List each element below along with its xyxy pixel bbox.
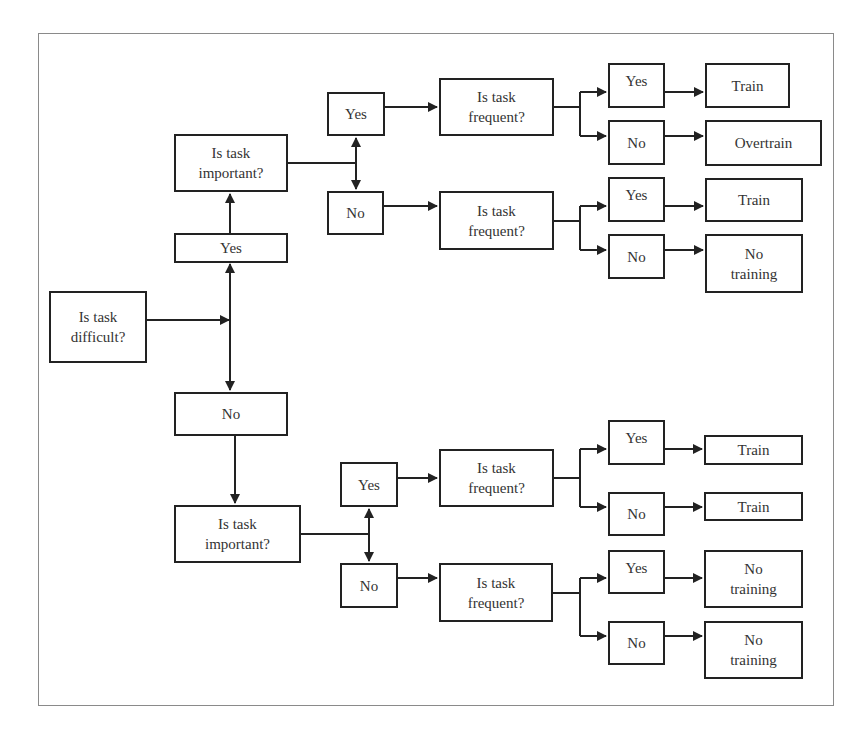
result-no-training-b: No training <box>705 234 803 293</box>
node-freq-a-no: No <box>608 120 665 165</box>
node-bottom-important-no: No <box>340 563 398 608</box>
result-train-a: Train <box>705 63 790 108</box>
result-no-training-c: No training <box>704 550 803 608</box>
node-freq-d: Is task frequent? <box>439 563 553 622</box>
result-train-b: Train <box>705 178 803 222</box>
node-freq-c: Is task frequent? <box>439 449 554 507</box>
result-train-c: Train <box>704 435 803 465</box>
result-no-training-d: No training <box>704 621 803 679</box>
node-freq-c-yes: Yes <box>608 420 665 465</box>
result-train-d: Train <box>704 492 803 521</box>
node-bottom-important-yes: Yes <box>340 462 398 507</box>
node-difficult-no: No <box>174 392 288 436</box>
node-top-is-task-important: Is task important? <box>174 134 288 192</box>
node-freq-b-yes: Yes <box>608 177 665 222</box>
node-difficult-yes: Yes <box>174 233 288 263</box>
node-is-task-difficult: Is task difficult? <box>49 291 147 363</box>
node-freq-d-yes: Yes <box>608 550 665 594</box>
node-bottom-is-task-important: Is task important? <box>174 505 301 563</box>
node-freq-c-no: No <box>608 492 665 536</box>
node-freq-b-no: No <box>608 234 665 279</box>
node-freq-d-no: No <box>608 621 665 665</box>
node-freq-b: Is task frequent? <box>439 191 554 250</box>
node-freq-a-yes: Yes <box>608 63 665 108</box>
result-overtrain: Overtrain <box>705 120 822 166</box>
node-top-important-yes: Yes <box>327 92 385 136</box>
node-top-important-no: No <box>327 191 384 235</box>
node-freq-a: Is task frequent? <box>439 78 554 136</box>
